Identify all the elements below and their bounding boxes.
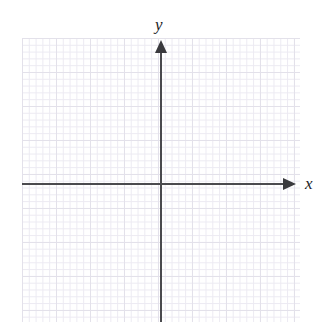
y-axis-line [160, 51, 162, 322]
y-axis-label: y [155, 16, 163, 33]
coordinate-plane-figure: x y [0, 0, 327, 328]
y-axis-arrow-icon [155, 40, 167, 53]
x-axis-arrow-icon [283, 178, 296, 190]
x-axis-label: x [305, 175, 313, 192]
x-axis-line [22, 183, 285, 185]
